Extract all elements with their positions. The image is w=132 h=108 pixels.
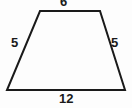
bottom-side-length-label: 12 [59,92,73,105]
right-side-length-label: 5 [111,36,118,49]
figure-container: 6 5 5 12 [0,0,132,108]
left-side-length-label: 5 [11,36,18,49]
top-side-length-label: 6 [60,0,67,8]
trapezoid-outline [7,11,125,90]
